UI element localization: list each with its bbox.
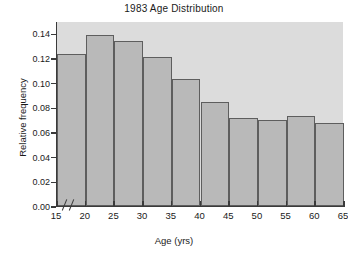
x-tick-label: 65	[338, 210, 348, 221]
x-tick-mark	[171, 201, 173, 207]
bar-55-60	[287, 116, 316, 206]
bar-20-25	[86, 35, 115, 206]
x-tick-mark	[200, 201, 202, 207]
x-tick-label: 35	[166, 210, 177, 221]
bar-35-40	[172, 79, 201, 206]
x-tick-mark	[286, 201, 288, 207]
x-tick-mark	[85, 201, 87, 207]
x-axis-ticks: 1520253035404550556065	[56, 207, 343, 227]
bar-30-35	[143, 57, 172, 206]
plot-area	[56, 22, 343, 207]
x-tick-mark	[343, 201, 345, 207]
bar-60-65	[315, 123, 344, 206]
x-tick-label: 15	[51, 210, 62, 221]
x-tick-label: 30	[137, 210, 148, 221]
x-tick-label: 45	[223, 210, 234, 221]
chart-figure: 1983 Age Distribution Relative frequency…	[0, 0, 348, 258]
x-tick-label: 50	[252, 210, 263, 221]
x-tick-label: 40	[194, 210, 205, 221]
bar-45-50	[229, 118, 258, 206]
x-axis-title: Age (yrs)	[0, 235, 348, 246]
y-axis-ticks: 0.000.020.040.060.080.100.120.14	[0, 22, 56, 207]
bar-50-55	[258, 120, 287, 206]
x-tick-label: 60	[309, 210, 320, 221]
x-tick-mark	[314, 201, 316, 207]
x-tick-mark	[56, 201, 58, 207]
x-tick-mark	[257, 201, 259, 207]
x-tick-label: 55	[280, 210, 291, 221]
x-tick-label: 25	[108, 210, 119, 221]
bar-15-20	[57, 54, 86, 206]
x-tick-mark	[113, 201, 115, 207]
chart-title: 1983 Age Distribution	[0, 3, 348, 14]
bar-25-30	[114, 41, 143, 206]
x-tick-mark	[228, 201, 230, 207]
bars-layer	[57, 22, 343, 206]
x-tick-mark	[142, 201, 144, 207]
x-tick-label: 20	[79, 210, 90, 221]
bar-40-45	[201, 102, 230, 206]
